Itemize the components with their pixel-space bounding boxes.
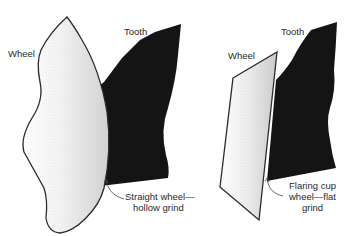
left-wheel-label: Wheel [8,48,35,59]
right-callout-arrow [267,180,283,196]
left-callout-line1: Straight wheel— [125,191,195,202]
left-panel: Wheel Tooth Straight wheel— hollow grind [8,17,195,233]
left-callout-line2: hollow grind [133,202,184,213]
left-tooth-label: Tooth [124,26,147,37]
right-tooth-shape [267,22,337,181]
right-callout-line1: Flaring cup [289,180,336,191]
right-wheel-label: Wheel [228,50,255,61]
right-panel: Wheel Tooth Flaring cup wheel—flat grind [220,22,337,220]
right-callout-line2: wheel—flat [288,191,336,202]
right-tooth-label: Tooth [281,26,304,37]
left-tooth-shape [99,24,181,186]
grinding-diagram: Wheel Tooth Straight wheel— hollow grind… [0,0,353,236]
right-callout-line3: grind [302,202,323,213]
